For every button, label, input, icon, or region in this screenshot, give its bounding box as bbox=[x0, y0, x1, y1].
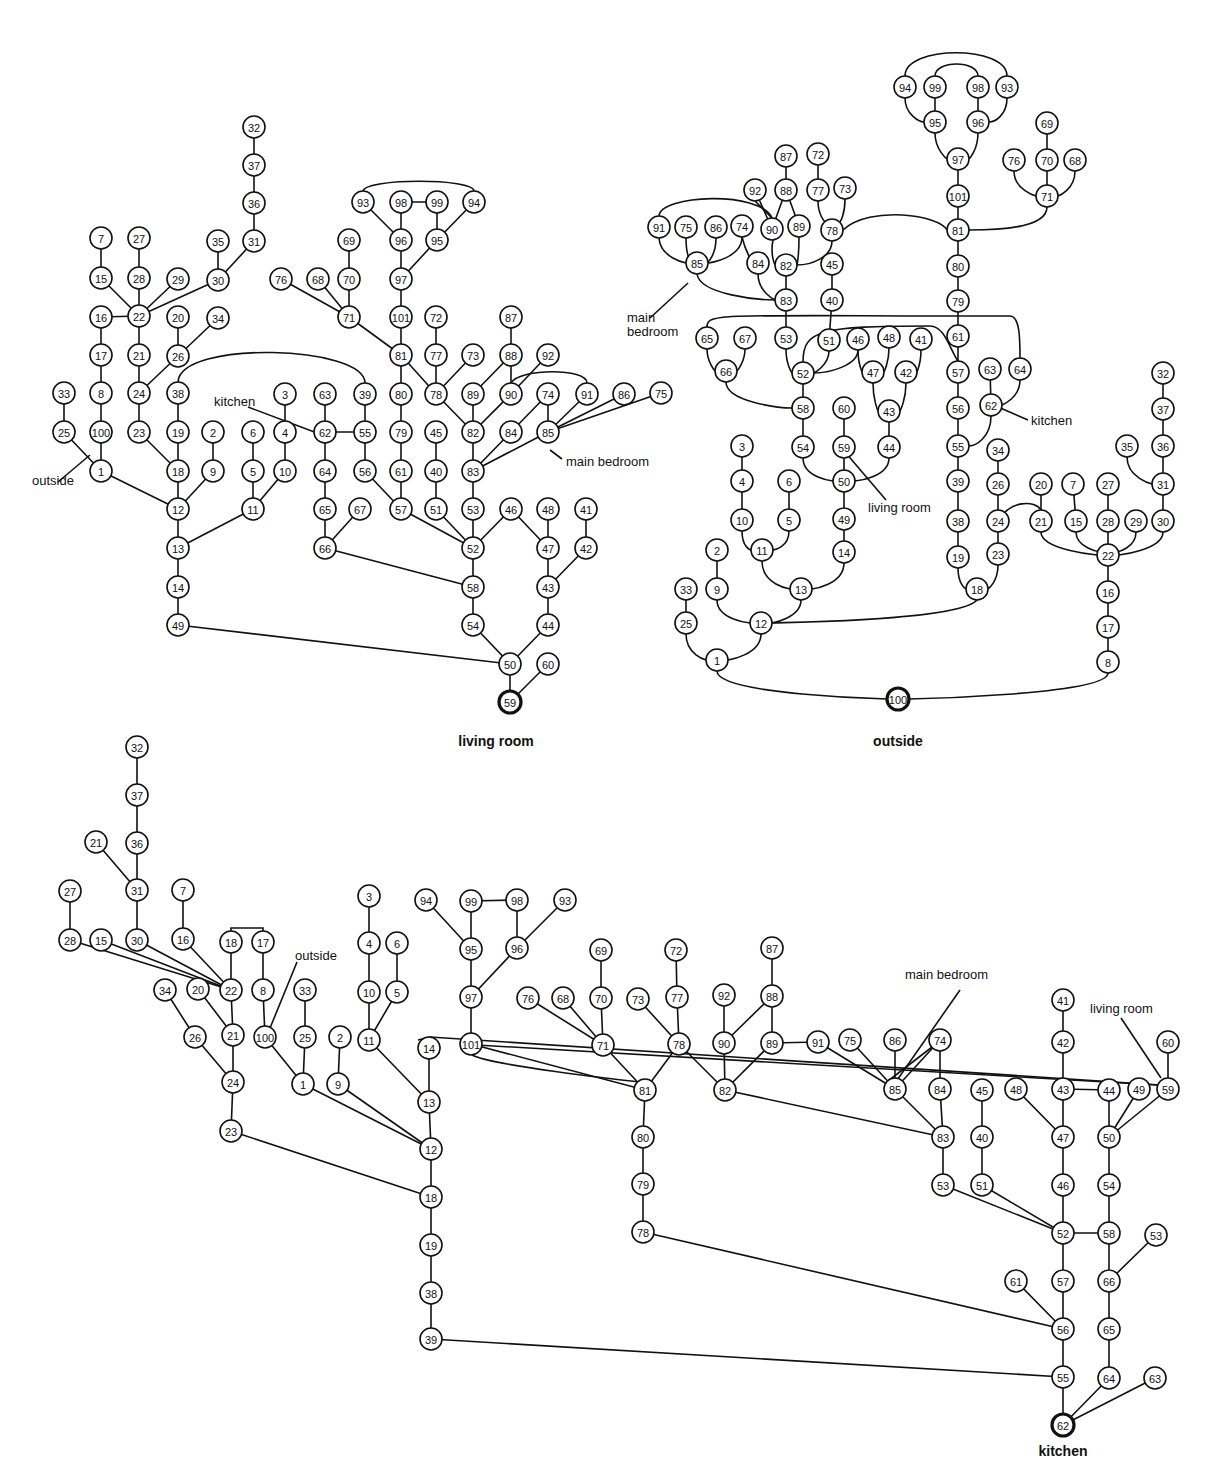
tree-node: 11 bbox=[242, 498, 264, 520]
curved-edge bbox=[812, 563, 844, 589]
tree-node: 33 bbox=[53, 382, 75, 404]
svg-text:65: 65 bbox=[701, 333, 713, 345]
svg-text:16: 16 bbox=[1102, 587, 1114, 599]
svg-text:37: 37 bbox=[131, 790, 143, 802]
tree-node: 72 bbox=[425, 306, 447, 328]
tree-node: 65 bbox=[1098, 1318, 1120, 1340]
svg-text:64: 64 bbox=[1103, 1373, 1115, 1385]
svg-text:14: 14 bbox=[423, 1043, 435, 1055]
svg-text:98: 98 bbox=[972, 82, 984, 94]
svg-text:75: 75 bbox=[680, 222, 692, 234]
svg-text:33: 33 bbox=[680, 584, 692, 596]
curved-edge bbox=[363, 181, 474, 191]
tree-node: 92 bbox=[744, 179, 766, 201]
tree-node: 76 bbox=[270, 268, 292, 290]
tree-node: 77 bbox=[807, 179, 829, 201]
home-layout-tree-diagrams: kitchenoutsidemain bedroom12345678910111… bbox=[0, 0, 1206, 1478]
curved-edge bbox=[909, 673, 1108, 699]
tree-node: 78 bbox=[632, 1221, 654, 1243]
svg-text:22: 22 bbox=[225, 985, 237, 997]
tree-node: 24 bbox=[128, 382, 150, 404]
svg-text:74: 74 bbox=[542, 389, 554, 401]
tree-node: 44 bbox=[537, 614, 559, 636]
curved-edge bbox=[178, 352, 365, 383]
svg-text:40: 40 bbox=[826, 295, 838, 307]
svg-text:94: 94 bbox=[468, 197, 480, 209]
svg-text:101: 101 bbox=[392, 312, 410, 324]
svg-text:51: 51 bbox=[823, 335, 835, 347]
tree-node: 58 bbox=[1098, 1222, 1120, 1244]
svg-text:97: 97 bbox=[952, 154, 964, 166]
svg-text:79: 79 bbox=[637, 1179, 649, 1191]
svg-text:54: 54 bbox=[1103, 1180, 1115, 1192]
svg-text:66: 66 bbox=[720, 366, 732, 378]
tree-node: 21 bbox=[128, 344, 150, 366]
svg-text:38: 38 bbox=[952, 516, 964, 528]
svg-text:92: 92 bbox=[718, 990, 730, 1002]
svg-text:2: 2 bbox=[337, 1032, 343, 1044]
tree-node: 67 bbox=[734, 327, 756, 349]
tree-node: 53 bbox=[1145, 1224, 1167, 1246]
tree-node: 2 bbox=[706, 539, 728, 561]
svg-text:40: 40 bbox=[976, 1132, 988, 1144]
tree-node: 90 bbox=[761, 218, 783, 240]
svg-text:53: 53 bbox=[780, 333, 792, 345]
tree-node: 73 bbox=[834, 177, 856, 199]
tree-node: 5 bbox=[242, 460, 264, 482]
svg-text:57: 57 bbox=[952, 367, 964, 379]
tree-node: 79 bbox=[390, 421, 412, 443]
svg-text:94: 94 bbox=[420, 895, 432, 907]
tree-node: 86 bbox=[613, 383, 635, 405]
tree-node: 12 bbox=[167, 498, 189, 520]
svg-text:100: 100 bbox=[889, 694, 907, 706]
tree-node: 56 bbox=[1052, 1318, 1074, 1340]
svg-text:28: 28 bbox=[133, 273, 145, 285]
tree-node: 6 bbox=[242, 421, 264, 443]
tree-node: 90 bbox=[500, 383, 522, 405]
tree-node: 18 bbox=[220, 931, 242, 953]
svg-text:33: 33 bbox=[58, 388, 70, 400]
tree-node: 52 bbox=[1052, 1222, 1074, 1244]
svg-text:71: 71 bbox=[1041, 191, 1053, 203]
tree-node: 38 bbox=[167, 382, 189, 404]
svg-text:78: 78 bbox=[826, 225, 838, 237]
svg-text:27: 27 bbox=[64, 886, 76, 898]
svg-text:51: 51 bbox=[976, 1180, 988, 1192]
tree-node: 32 bbox=[243, 116, 265, 138]
svg-text:7: 7 bbox=[1070, 479, 1076, 491]
curved-edge bbox=[900, 383, 906, 411]
svg-text:3: 3 bbox=[366, 891, 372, 903]
svg-text:53: 53 bbox=[467, 504, 479, 516]
tree-node: 87 bbox=[500, 306, 522, 328]
svg-text:36: 36 bbox=[1157, 441, 1169, 453]
tree-node: 54 bbox=[792, 436, 814, 458]
kitchen-rooted-tree: outsidemain bedroomliving room1234567891… bbox=[59, 736, 1179, 1459]
svg-text:15: 15 bbox=[95, 935, 107, 947]
svg-text:58: 58 bbox=[467, 582, 479, 594]
tree-node: 54 bbox=[1098, 1174, 1120, 1196]
tree-node: 16 bbox=[1097, 581, 1119, 603]
tree-node: 20 bbox=[1030, 473, 1052, 495]
tree-node: 74 bbox=[537, 383, 559, 405]
room-label: main bbox=[627, 310, 655, 325]
tree-node: 27 bbox=[128, 227, 150, 249]
svg-text:46: 46 bbox=[852, 334, 864, 346]
tree-node: 41 bbox=[575, 498, 597, 520]
tree-node: 100 bbox=[254, 1026, 276, 1048]
tree-node: 89 bbox=[462, 383, 484, 405]
svg-text:88: 88 bbox=[766, 991, 778, 1003]
tree-node: 4 bbox=[731, 470, 753, 492]
tree-node: 81 bbox=[390, 344, 412, 366]
svg-text:24: 24 bbox=[133, 388, 145, 400]
svg-text:84: 84 bbox=[934, 1084, 946, 1096]
svg-text:77: 77 bbox=[430, 350, 442, 362]
tree-node: 92 bbox=[537, 344, 559, 366]
tree-node: 58 bbox=[462, 576, 484, 598]
svg-text:78: 78 bbox=[673, 1039, 685, 1051]
svg-text:56: 56 bbox=[1057, 1324, 1069, 1336]
tree-node: 42 bbox=[1052, 1031, 1074, 1053]
svg-text:88: 88 bbox=[505, 350, 517, 362]
svg-text:71: 71 bbox=[597, 1040, 609, 1052]
tree-node: 75 bbox=[650, 382, 672, 404]
tree-node: 32 bbox=[1152, 362, 1174, 384]
